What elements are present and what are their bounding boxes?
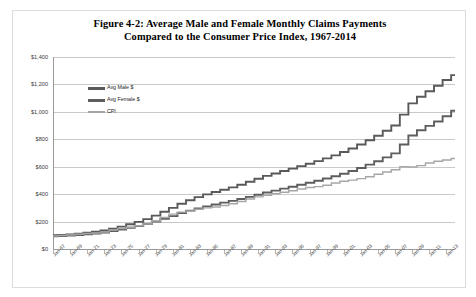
legend-label: Avg Female $ xyxy=(107,96,140,102)
plot-area: $0$200$400$600$800$1,000$1,200$1,400 Jan… xyxy=(0,0,476,297)
chart-legend: Avg Male $Avg Female $CPI xyxy=(88,84,158,118)
series-line-avg-female xyxy=(53,111,455,237)
series-line-cpi xyxy=(53,158,455,235)
series-lines xyxy=(0,0,476,297)
legend-label: Avg Male $ xyxy=(107,84,133,90)
legend-swatch xyxy=(88,87,105,90)
legend-swatch xyxy=(88,99,105,102)
legend-swatch xyxy=(88,111,105,113)
legend-label: CPI xyxy=(107,108,116,114)
